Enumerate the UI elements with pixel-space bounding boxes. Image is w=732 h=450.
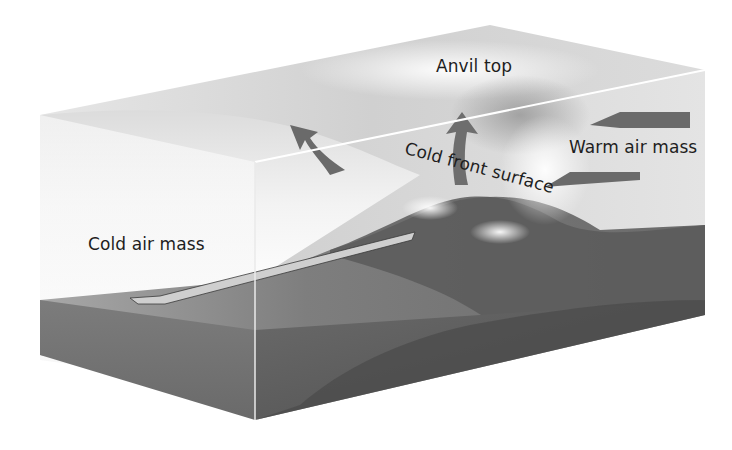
low-cloud-2 [470,220,530,244]
label-warm-air-mass: Warm air mass [569,137,697,157]
label-cold-air-mass: Cold air mass [88,234,205,254]
low-cloud-1 [402,196,458,220]
block-diagram-illustration [0,0,732,450]
label-anvil-top: Anvil top [436,56,512,76]
